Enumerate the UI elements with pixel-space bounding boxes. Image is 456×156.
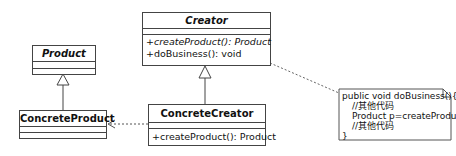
operation-create-product: +createProduct(): Product <box>152 131 262 143</box>
inheritance-arrow-icon <box>199 66 211 78</box>
class-concrete-creator[interactable]: ConcreteCreator +createProduct(): Produc… <box>148 104 266 146</box>
class-name: Creator <box>143 13 270 29</box>
class-name: Product <box>33 46 95 62</box>
inheritance-arrow-icon <box>57 74 69 85</box>
operations-compartment: +createProduct(): Product +doBusiness():… <box>143 35 270 61</box>
note-line: //其他代码 <box>342 121 448 131</box>
note-anchor-line <box>270 63 339 93</box>
operation-do-business: +doBusiness(): void <box>146 48 267 60</box>
class-name: ConcreteProduct <box>20 111 106 127</box>
attributes-compartment <box>33 62 95 69</box>
class-creator[interactable]: Creator +createProduct(): Product +doBus… <box>142 12 271 66</box>
note-line: Product p=createProduct(); <box>342 111 448 121</box>
operation-create-product: +createProduct(): Product <box>146 36 267 48</box>
class-product[interactable]: Product <box>32 45 96 75</box>
note-line: } <box>342 131 448 141</box>
note-line: public void doBusiness(){ <box>342 91 448 101</box>
operations-compartment <box>20 133 106 139</box>
class-concrete-product[interactable]: ConcreteProduct <box>19 110 107 139</box>
note-line: //其他代码 <box>342 101 448 111</box>
operations-compartment: +createProduct(): Product <box>149 129 265 144</box>
class-name: ConcreteCreator <box>149 105 265 123</box>
code-note: public void doBusiness(){ //其他代码 Product… <box>339 89 451 140</box>
operations-compartment <box>33 69 95 75</box>
